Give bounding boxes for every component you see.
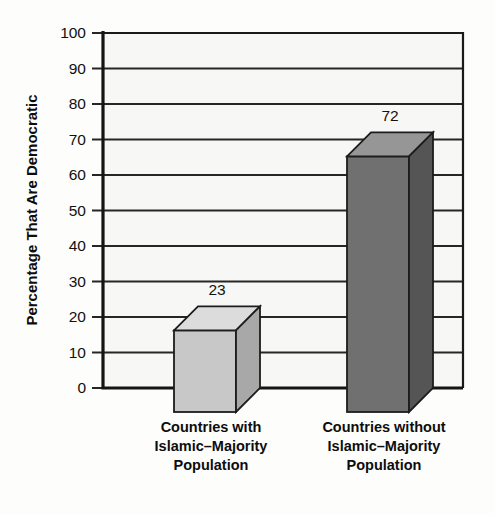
y-axis-tick-label: 10 [69, 344, 87, 361]
y-axis-tick-label: 50 [69, 202, 87, 219]
bar-front-face [174, 330, 236, 412]
y-axis-tick-label: 70 [69, 131, 87, 148]
bar-chart-figure: 1009080706050403020100 2372 Countries wi… [0, 0, 495, 515]
y-axis-tick-label: 60 [69, 166, 87, 183]
y-axis-tick-label: 20 [69, 308, 87, 325]
x-axis-category-label-line: Islamic–Majority [155, 438, 268, 454]
y-axis-tick-label: 100 [60, 24, 86, 41]
x-axis-category-label-line: Population [174, 457, 249, 473]
y-axis-tick-label: 80 [69, 95, 87, 112]
bar-3d [347, 132, 433, 412]
x-axis-category-label-line: Countries without [322, 419, 445, 435]
y-axis-tick-label: 90 [69, 60, 87, 77]
x-axis-category-label-line: Islamic–Majority [328, 438, 441, 454]
x-axis-category-label-line: Population [347, 457, 422, 473]
y-axis-title-text: Percentage That Are Democratic [23, 94, 40, 325]
bar-value-label: 23 [208, 281, 225, 298]
bar-front-face [347, 156, 409, 412]
x-axis-category-label-line: Countries with [161, 419, 262, 435]
y-axis-tick-label: 0 [77, 379, 86, 396]
bar-3d [174, 306, 260, 412]
y-axis-tick-label: 40 [69, 237, 87, 254]
chart-canvas: 1009080706050403020100 2372 Countries wi… [0, 0, 495, 515]
y-axis-title: Percentage That Are Democratic [23, 94, 40, 325]
bar-side-face [409, 132, 433, 412]
y-axis-tick-label: 30 [69, 273, 87, 290]
bar-value-label: 72 [381, 107, 398, 124]
